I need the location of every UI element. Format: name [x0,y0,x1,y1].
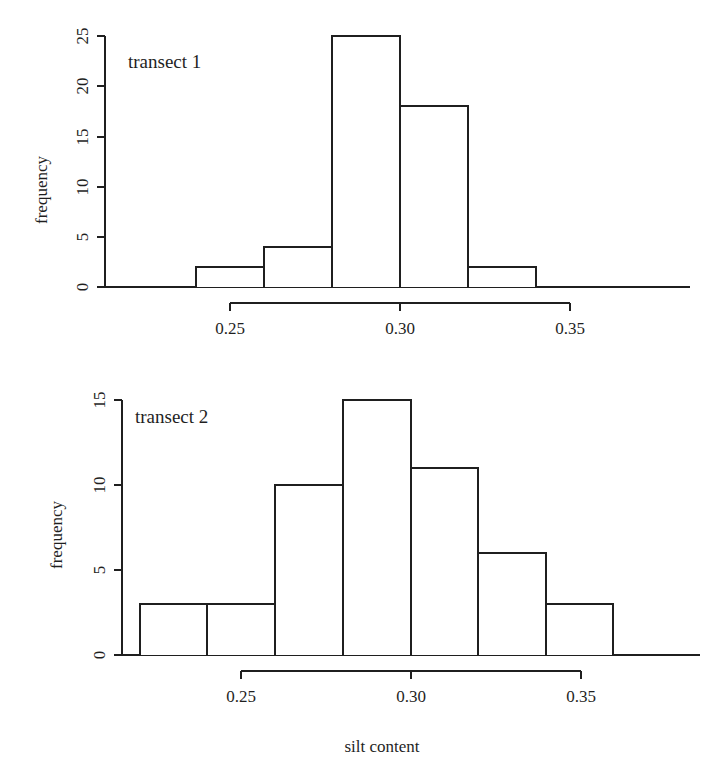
bar-top-2 [264,247,332,287]
annotation-transect-1: transect 1 [128,51,201,72]
bar-bottom-5 [411,468,478,655]
bar-top-5 [468,267,536,287]
y-axis-title-bottom: frequency [47,501,66,569]
bar-top-3 [332,36,400,287]
y-ticklabel-5-top: 5 [73,233,92,242]
y-ticklabel-0-top: 0 [73,283,92,292]
y-ticklabel-25-top: 25 [73,28,92,45]
y-axis-title-top: frequency [32,156,51,224]
x-axis-title: silt content [344,737,419,756]
bar-top-1 [196,267,264,287]
x-ticklabel-030-top: 0.30 [385,319,415,338]
y-ticklabel-5-bottom: 5 [90,566,109,575]
x-ticklabel-035-bottom: 0.35 [566,687,596,706]
y-ticklabel-20-top: 20 [73,78,92,95]
chart-transect-1: 0 5 10 15 20 25 frequency 0.25 0.30 0.35 [0,0,711,370]
x-ticklabel-025-bottom: 0.25 [226,687,256,706]
bar-bottom-1 [140,604,207,655]
bar-bottom-3 [275,485,343,655]
chart-transect-2: 0 5 10 15 frequency 0.25 0.30 0.35 [0,370,711,784]
bar-bottom-4 [343,400,411,655]
bar-top-4 [400,106,468,287]
y-ticklabel-10-top: 10 [73,179,92,196]
bar-bottom-2 [207,604,275,655]
annotation-transect-2: transect 2 [135,406,208,427]
y-ticklabel-0-bottom: 0 [90,651,109,660]
y-ticklabel-15-top: 15 [73,129,92,146]
panel-transect-1: 0 5 10 15 20 25 frequency 0.25 0.30 0.35 [0,0,711,370]
y-ticklabel-10-bottom: 10 [90,477,109,494]
x-ticklabel-025-top: 0.25 [215,319,245,338]
bar-bottom-6 [478,553,546,655]
y-ticklabel-15-bottom: 15 [90,392,109,409]
histogram-figure: 0 5 10 15 20 25 frequency 0.25 0.30 0.35 [0,0,711,784]
x-ticklabel-030-bottom: 0.30 [396,687,426,706]
panel-transect-2: 0 5 10 15 frequency 0.25 0.30 0.35 [0,370,711,784]
bar-bottom-7 [546,604,613,655]
x-ticklabel-035-top: 0.35 [555,319,585,338]
